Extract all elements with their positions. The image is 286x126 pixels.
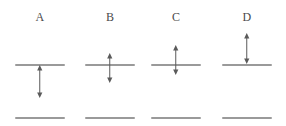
upper-level-line [15,64,65,66]
panel-label-c: C [140,10,212,24]
arrow-head-up [173,45,178,51]
panel-b: B [74,0,146,126]
panel-c: C [140,0,212,126]
lower-level-line [85,117,135,119]
arrow-head-up [107,53,112,59]
arrow-head-down [37,93,42,99]
panel-label-a: A [4,10,76,24]
panel-label-b: B [74,10,146,24]
panel-a: A [4,0,76,126]
upper-level-line [151,64,201,66]
lower-level-line [151,117,201,119]
panel-d: D [211,0,283,126]
upper-level-line [85,64,135,66]
upper-level-line [222,64,272,66]
energy-level-diagram: ABCD [0,0,286,126]
lower-level-line [15,117,65,119]
panel-label-d: D [211,10,283,24]
arrow-head-down [107,78,112,84]
lower-level-line [222,117,272,119]
arrow-head-down [173,70,178,76]
arrow-head-up [244,33,249,39]
